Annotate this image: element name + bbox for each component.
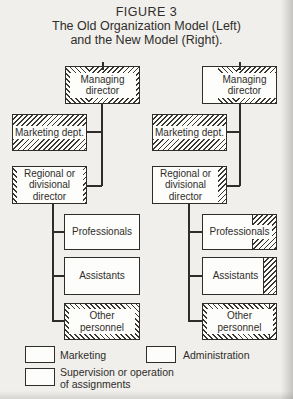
figure-number: FIGURE 3	[0, 5, 293, 19]
connector-old-professionals	[52, 231, 64, 233]
connector-new-professionals	[188, 231, 202, 233]
box-new-assistants: Assistants	[202, 257, 277, 295]
connector-old-regional	[87, 185, 102, 187]
connector-new-regional	[227, 185, 240, 187]
legend-administration-swatch	[146, 346, 176, 363]
connector-tick-old-top	[102, 62, 104, 70]
box-label: Marketing dept.	[153, 126, 226, 140]
box-old-marketing-dept: Marketing dept.	[12, 114, 87, 151]
figure-page: FIGURE 3 The Old Organization Model (Lef…	[0, 0, 293, 399]
box-label: Managing director	[213, 73, 276, 98]
legend-supervision-swatch	[25, 368, 55, 386]
box-label: Professionals	[207, 225, 271, 239]
box-new-managing-director: Managing director	[202, 66, 277, 104]
connector-new-assistants	[188, 275, 202, 277]
scan-edge-right	[281, 0, 293, 399]
legend-supervision-label-line1: Supervision or operation	[60, 366, 174, 378]
legend-supervision-label-line2: of assignments	[60, 378, 131, 390]
box-old-regional-director: Regional or divisional director	[12, 166, 87, 204]
box-new-regional-director: Regional or divisional director	[152, 166, 227, 204]
box-label: Other personnel	[207, 309, 273, 334]
box-label: Regional or divisional director	[153, 167, 218, 204]
box-label: Professionals	[70, 225, 134, 239]
connector-new-vertical-top	[239, 104, 241, 186]
legend-marketing-swatch	[25, 346, 55, 363]
box-old-other-personnel: Other personnel	[64, 303, 140, 340]
box-label: Assistants	[211, 269, 261, 283]
connector-tick-new-top	[239, 62, 241, 70]
box-label: Assistants	[77, 269, 127, 283]
box-new-professionals: Professionals	[202, 214, 277, 250]
box-old-managing-director: Managing director	[65, 66, 140, 104]
box-label: Managing director	[70, 73, 136, 98]
box-label: Marketing dept.	[13, 126, 86, 140]
connector-old-vertical-top	[101, 104, 103, 186]
box-label: Other personnel	[69, 309, 135, 334]
legend-administration-label: Administration	[183, 349, 250, 361]
marketing-hatch	[263, 258, 276, 294]
connector-new-marketing-dept	[227, 131, 240, 133]
box-new-marketing-dept: Marketing dept.	[152, 114, 227, 151]
connector-old-marketing-dept	[87, 131, 102, 133]
box-label: Regional or divisional director	[17, 167, 83, 204]
box-new-other-personnel: Other personnel	[202, 303, 277, 340]
connector-new-vertical-bottom	[188, 204, 190, 322]
figure-subtitle-line1: The Old Organization Model (Left)	[0, 19, 293, 33]
figure-subtitle-line2: and the New Model (Right).	[0, 33, 293, 47]
box-old-professionals: Professionals	[64, 214, 140, 250]
connector-old-other	[52, 320, 64, 322]
connector-old-assistants	[52, 275, 64, 277]
scan-edge-bottom	[0, 391, 293, 399]
box-old-assistants: Assistants	[64, 257, 140, 295]
connector-new-other	[188, 320, 202, 322]
connector-old-vertical-bottom	[52, 204, 54, 322]
legend-marketing-label: Marketing	[60, 349, 106, 361]
